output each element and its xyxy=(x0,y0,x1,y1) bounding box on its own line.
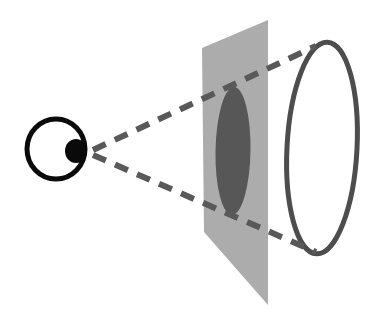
pupil xyxy=(65,139,87,163)
diagram-canvas xyxy=(0,0,379,334)
perspective-projection-diagram xyxy=(0,0,379,334)
